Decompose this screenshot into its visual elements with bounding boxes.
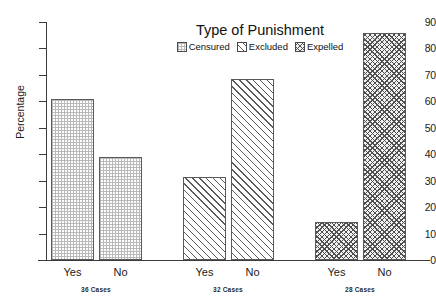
x-axis-tick-label: No [228, 266, 278, 278]
y-axis-tick [39, 207, 46, 208]
bar-censured-no [99, 157, 142, 260]
x-axis-tick-label: Yes [312, 266, 362, 278]
bar-expelled-no [363, 33, 406, 260]
plot-area [47, 22, 429, 260]
bar-chart: Percentage 9080706050403020100 Type of P… [0, 0, 436, 304]
y-axis-tick [39, 128, 46, 129]
y-axis-tick [39, 181, 46, 182]
bar-excluded-yes [183, 177, 226, 260]
group-cases-label: 32 Cases [188, 286, 268, 294]
group-cases-label: 36 Cases [56, 286, 136, 294]
x-axis-tick-label: Yes [180, 266, 230, 278]
y-axis-title: Percentage [14, 62, 26, 162]
bar-expelled-yes [315, 222, 358, 260]
group-cases-label: 28 Cases [320, 286, 400, 294]
y-axis-tick [39, 48, 46, 49]
x-axis-tick-label: No [96, 266, 146, 278]
y-axis-tick [39, 154, 46, 155]
x-axis-tick-label: No [360, 266, 410, 278]
y-axis-tick [39, 75, 46, 76]
y-axis-tick [39, 234, 46, 235]
y-axis-tick [39, 101, 46, 102]
x-axis-line [38, 260, 430, 261]
x-axis-tick-label: Yes [48, 266, 98, 278]
bar-excluded-no [231, 79, 274, 260]
y-axis-tick [39, 22, 46, 23]
bar-censured-yes [51, 99, 94, 260]
